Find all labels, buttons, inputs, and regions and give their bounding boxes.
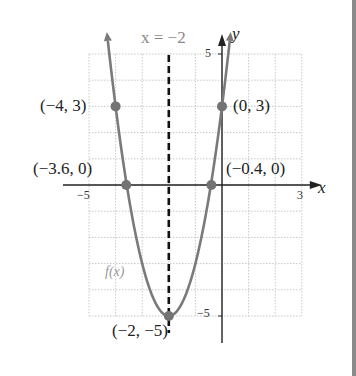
x-axis-label: x [318,178,326,198]
x-tick-3: 3 [297,188,303,203]
page-edge-bar [352,0,356,376]
point-label-neg3.6-0: (−3.6, 0) [33,159,92,179]
point-label-neg4-3: (−4, 3) [40,96,86,116]
chart-figure: x = −2 y x 5 −5 −5 3 f(x) (−4, 3) (0, 3)… [0,0,356,376]
axis-of-symmetry-label: x = −2 [141,28,186,48]
y-tick-neg5: −5 [197,306,210,321]
x-tick-neg5: −5 [77,188,90,203]
point-label-0-3: (0, 3) [233,96,270,116]
point-label-vertex: (−2, −5) [112,321,168,341]
y-tick-5: 5 [205,46,211,61]
y-axis-label: y [232,24,240,44]
function-label: f(x) [105,264,124,280]
point-label-neg0.4-0: (−0.4, 0) [226,159,285,179]
